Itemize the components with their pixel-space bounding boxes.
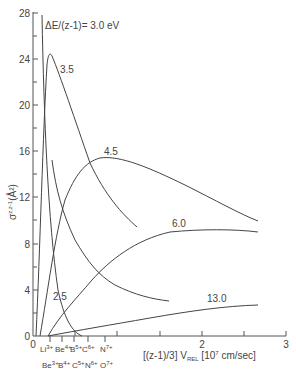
svg-text:20: 20 [19,100,31,111]
svg-text:B5+: B5+ [70,344,83,354]
annotation-delta-e: ΔE/(z-1)= 3.0 eV [45,20,120,31]
svg-text:N7+: N7+ [100,344,113,354]
svg-text:4: 4 [24,285,30,296]
axes [33,12,286,342]
svg-text:24: 24 [19,54,31,65]
svg-text:C5+: C5+ [72,360,85,370]
svg-text:B4+: B4+ [58,360,71,370]
y-axis-label: σz,z-1(Å²) [6,184,18,220]
svg-text:3: 3 [283,339,289,350]
svg-text:2: 2 [199,339,205,350]
svg-text:0: 0 [30,339,36,350]
label-3.5: 3.5 [60,64,74,75]
x-axis-label: [(z-1)/3] VREL [107 cm/sec] [143,350,256,362]
svg-text:16: 16 [19,146,31,157]
label-4.5: 4.5 [104,146,118,157]
curve-4.5 [40,158,258,336]
svg-text:12: 12 [19,192,31,203]
ion-labels: Li3+ Be4+ B5+ C6+ N7+ Be3+ B4+ C5+ N6+ O… [40,344,114,370]
curve-labels: ΔE/(z-1)= 3.0 eV 3.5 4.5 6.0 13.0 2.5 [45,20,227,304]
curve-13.0 [48,305,258,336]
svg-text:O7+: O7+ [100,360,114,370]
svg-text:28: 28 [19,8,31,19]
label-13.0: 13.0 [207,293,227,304]
curve-descending [52,160,169,301]
svg-text:N6+: N6+ [85,360,98,370]
svg-text:8: 8 [24,239,30,250]
curve-3.5 [36,54,137,336]
chart: 28 24 20 16 12 8 4 0 0 2 3 σz,z-1(Å²) ΔE… [0,0,296,378]
label-6.0: 6.0 [172,218,186,229]
svg-text:Li3+: Li3+ [40,344,54,354]
curve-6.0 [48,230,258,336]
svg-text:Be3+: Be3+ [42,360,59,370]
label-2.5: 2.5 [53,291,67,302]
svg-text:C6+: C6+ [82,344,95,354]
